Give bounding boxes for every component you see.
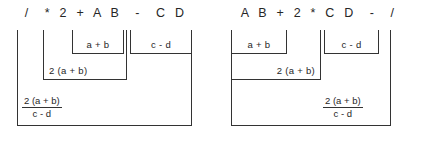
prefix-expression-text: / * 2 + A B - C D xyxy=(0,6,212,20)
fraction-denominator: c - d xyxy=(323,108,363,119)
fraction-denominator: c - d xyxy=(22,108,62,119)
quotient-fraction: 2 (a + b)c - d xyxy=(22,96,62,120)
postfix-expression-diagram: A B + 2 * C D - / a + bc - d2 (a + b)2 (… xyxy=(213,0,425,147)
fraction-numerator: 2 (a + b) xyxy=(22,96,62,108)
bracket-quotient xyxy=(231,30,391,126)
postfix-expression-text: A B + 2 * C D - / xyxy=(213,6,425,20)
fraction-numerator: 2 (a + b) xyxy=(323,96,363,108)
prefix-expression-diagram: / * 2 + A B - C D a + bc - d2 (a + b)2 (… xyxy=(0,0,212,147)
quotient-fraction: 2 (a + b)c - d xyxy=(323,96,363,120)
